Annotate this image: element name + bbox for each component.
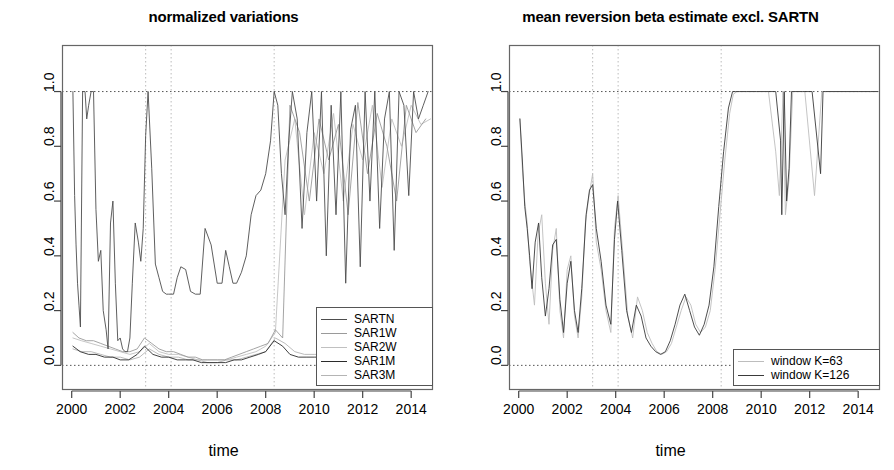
legend-line-swatch [321,347,347,348]
plot-area-left [0,0,447,470]
figure-canvas: normalized variations time SARTNSAR1WSAR… [0,0,894,470]
xaxis-title-left: time [0,442,447,460]
xtick-label: 2012 [794,401,825,417]
legend-line-swatch [738,375,764,376]
xtick-label: 2012 [347,401,378,417]
legend-entry[interactable]: SAR1M [321,354,426,368]
legend-entry[interactable]: SAR1W [321,326,426,340]
legend-label: window K=63 [771,354,843,368]
xtick-label: 2002 [105,401,136,417]
legend-right[interactable]: window K=63window K=126 [733,349,880,386]
xtick-label: 2004 [153,401,184,417]
xaxis-title-right: time [447,442,894,460]
xtick-label: 2014 [843,401,874,417]
legend-label: SARTN [354,312,394,326]
xtick-label: 2006 [649,401,680,417]
legend-entry[interactable]: window K=126 [738,368,873,382]
legend-label: window K=126 [771,368,849,382]
legend-entry[interactable]: SAR3M [321,368,426,382]
legend-left[interactable]: SARTNSAR1WSAR2WSAR1MSAR3M [316,307,433,386]
xtick-label: 2002 [552,401,583,417]
xtick-label: 2000 [56,401,87,417]
legend-line-swatch [321,361,347,362]
xtick-label: 2006 [202,401,233,417]
legend-line-swatch [321,375,347,376]
legend-line-swatch [321,319,347,320]
legend-label: SAR2W [354,340,397,354]
legend-entry[interactable]: SAR2W [321,340,426,354]
legend-entry[interactable]: SARTN [321,312,426,326]
xtick-label: 2008 [250,401,281,417]
xtick-label: 2014 [396,401,427,417]
legend-label: SAR3M [354,368,395,382]
panel-mean-reversion-beta: mean reversion beta estimate excl. SARTN… [447,0,894,470]
xtick-label: 2008 [697,401,728,417]
plot-area-right [447,0,894,470]
xtick-label: 2010 [746,401,777,417]
legend-entry[interactable]: window K=63 [738,354,873,368]
xtick-label: 2010 [299,401,330,417]
xtick-label: 2004 [600,401,631,417]
legend-label: SAR1M [354,354,395,368]
xtick-label: 2000 [503,401,534,417]
legend-line-swatch [738,361,764,362]
legend-line-swatch [321,333,347,334]
panel-normalized-variations: normalized variations time SARTNSAR1WSAR… [0,0,447,470]
legend-label: SAR1W [354,326,397,340]
